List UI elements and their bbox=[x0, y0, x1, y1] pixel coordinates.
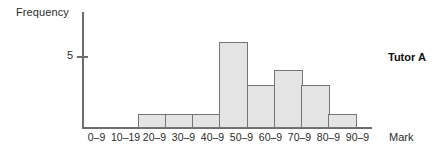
bar-80-9 bbox=[301, 85, 330, 128]
bar-90-9 bbox=[328, 114, 357, 128]
bar-40-9 bbox=[192, 114, 221, 128]
x-tick-label: 50–9 bbox=[227, 131, 256, 143]
y-axis-title: Frequency bbox=[16, 6, 69, 18]
x-tick-label: 70–9 bbox=[285, 131, 314, 143]
bar-20-9 bbox=[138, 114, 167, 128]
x-tick-label: 0–9 bbox=[82, 131, 111, 143]
x-tick-label: 20–9 bbox=[140, 131, 169, 143]
x-tick-label: 60–9 bbox=[256, 131, 285, 143]
bar-series-tutor-a bbox=[138, 12, 355, 128]
x-tick-label: 30–9 bbox=[169, 131, 198, 143]
bar-30-9 bbox=[165, 114, 194, 128]
bar-50-9 bbox=[219, 42, 248, 128]
series-annotation-tutor-a: Tutor A bbox=[388, 51, 426, 63]
x-tick-label: 90–9 bbox=[343, 131, 372, 143]
y-tick-label-5: 5 bbox=[57, 49, 73, 61]
x-tick-label: 10–19 bbox=[111, 131, 140, 143]
x-tick-label: 80–9 bbox=[314, 131, 343, 143]
histogram-figure: Frequency 5 0–910–1920–930–940–950–960–9… bbox=[0, 0, 448, 157]
x-axis-tick-labels: 0–910–1920–930–940–950–960–970–980–990–9 bbox=[82, 131, 372, 143]
x-tick-label: 40–9 bbox=[198, 131, 227, 143]
bar-60-9 bbox=[247, 85, 276, 128]
x-axis-title: Mark bbox=[389, 131, 413, 143]
plot-area bbox=[82, 12, 372, 128]
bar-70-9 bbox=[274, 70, 303, 128]
